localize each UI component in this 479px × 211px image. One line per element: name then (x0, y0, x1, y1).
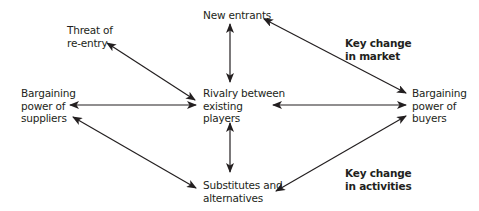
node-label-line: alternatives (203, 192, 282, 205)
node-bargaining-power-buyers: Bargaining power of buyers (412, 87, 467, 125)
annotation-key-change-market: Key change in market (345, 37, 411, 62)
annotation-key-change-activities: Key change in activities (345, 167, 412, 192)
node-substitutes-alternatives: Substitutes and alternatives (203, 179, 282, 204)
node-label-line: Substitutes and (203, 179, 282, 192)
node-label-line: existing (203, 100, 285, 113)
node-bargaining-power-suppliers: Bargaining power of suppliers (21, 87, 76, 125)
node-label-line: Rivalry between (203, 87, 285, 100)
annotation-line: Key change (345, 37, 411, 50)
node-rivalry-existing-players: Rivalry between existing players (203, 87, 285, 125)
node-label-line: Bargaining (412, 87, 467, 100)
node-label-line: Bargaining (21, 87, 76, 100)
annotation-line: in market (345, 50, 411, 63)
node-label-line: buyers (412, 112, 467, 125)
node-threat-of-reentry: Threat of re-entry (67, 24, 113, 49)
node-label-line: New entrants (203, 9, 271, 22)
annotation-line: in activities (345, 180, 412, 193)
node-new-entrants: New entrants (203, 9, 271, 22)
edge-threat-rivalry (107, 43, 195, 100)
annotation-line: Key change (345, 167, 412, 180)
node-label-line: players (203, 112, 285, 125)
node-label-line: suppliers (21, 112, 76, 125)
node-label-line: re-entry (67, 37, 113, 50)
node-label-line: power of (412, 100, 467, 113)
edge-suppliers-substitutes (73, 117, 196, 188)
node-label-line: Threat of (67, 24, 113, 37)
node-label-line: power of (21, 100, 76, 113)
